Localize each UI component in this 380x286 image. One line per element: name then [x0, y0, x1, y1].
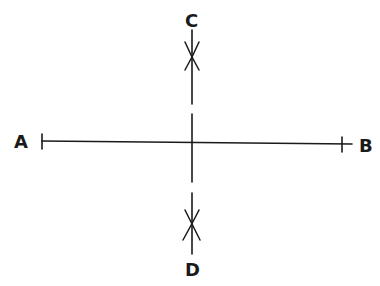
arc-d-2	[183, 210, 199, 240]
label-a: A	[14, 131, 28, 152]
segment-ab	[42, 141, 352, 144]
diagram-canvas: A B C D	[0, 0, 380, 286]
label-b: B	[359, 135, 373, 156]
label-c: C	[185, 10, 198, 31]
perpendicular-bisector-diagram: A B C D	[0, 0, 380, 286]
label-d: D	[185, 259, 200, 280]
